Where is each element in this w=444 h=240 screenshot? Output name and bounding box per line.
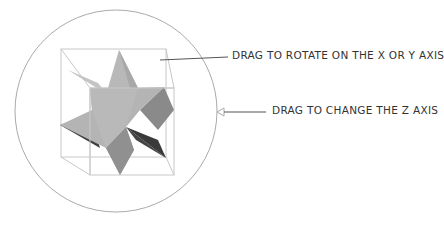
rotate-xy-label: DRAG TO ROTATE ON THE X OR Y AXIS <box>232 49 444 61</box>
rotate-leader-line <box>160 57 228 60</box>
star-object[interactable] <box>60 50 174 175</box>
rotate-z-label: DRAG TO CHANGE THE Z AXIS <box>272 104 438 116</box>
z-axis-handle[interactable] <box>217 108 224 116</box>
